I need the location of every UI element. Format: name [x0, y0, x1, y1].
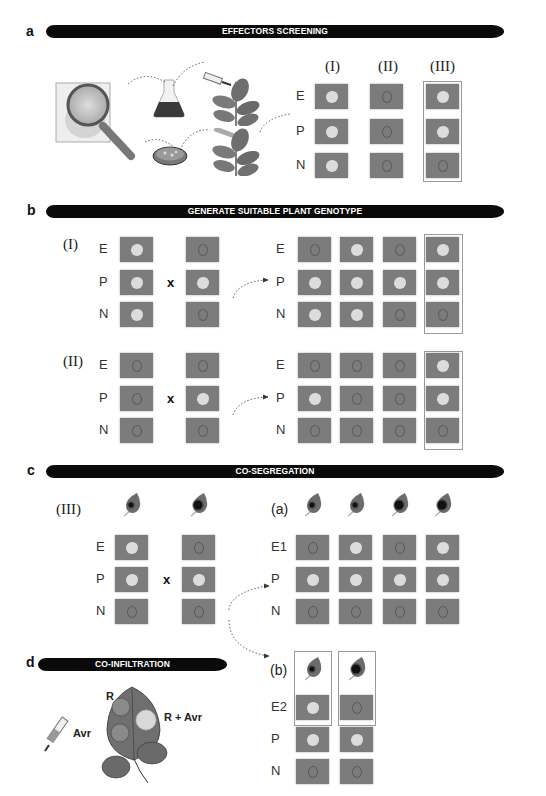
- infiltration-ring-icon: [198, 425, 208, 437]
- row-label: E: [276, 357, 285, 372]
- row-label: P: [296, 123, 305, 138]
- group-label-ii: (II): [63, 353, 83, 370]
- cell-death-spot-icon: [126, 574, 138, 586]
- row-label: N: [276, 422, 285, 437]
- cell-death-spot-icon: [350, 542, 362, 554]
- row-label: E: [99, 241, 108, 256]
- leaf-disc-healthy: [182, 599, 215, 624]
- leaf-disc-healthy: [383, 302, 416, 327]
- leaf-disc-healthy: [426, 599, 459, 624]
- leaf-disc-healthy: [339, 599, 372, 624]
- infiltration-ring-icon: [438, 425, 448, 437]
- cross-symbol: x: [167, 391, 174, 406]
- cell-death-spot-icon: [307, 734, 319, 746]
- leaf-disc-necrotic: [186, 386, 219, 411]
- infiltration-ring-icon: [382, 160, 392, 172]
- infiltration-ring-icon: [308, 766, 318, 778]
- group-label-i: (I): [63, 236, 78, 253]
- leaf-disc-healthy: [340, 418, 373, 443]
- infiltration-ring-icon: [395, 360, 405, 372]
- leaf-disc-healthy: [120, 353, 153, 378]
- panel-c-letter: c: [27, 462, 35, 478]
- row-label: N: [271, 603, 280, 618]
- infiltration-ring-icon: [395, 425, 405, 437]
- leaf-large-lesion-icon: [349, 656, 367, 682]
- panel-d-letter: d: [26, 654, 35, 670]
- cell-death-spot-icon: [326, 91, 338, 103]
- panel-d-banner: CO-INFILTRATION: [38, 658, 227, 671]
- label-avr: Avr: [73, 727, 91, 739]
- leaf-disc-healthy: [340, 759, 373, 784]
- cell-death-spot-icon: [437, 126, 449, 138]
- cell-death-spot-icon: [351, 277, 363, 289]
- infiltration-ring-icon: [395, 309, 405, 321]
- cell-death-spot-icon: [307, 702, 319, 714]
- row-label: P: [276, 274, 285, 289]
- dotted-arrow: [225, 570, 275, 660]
- leaf-disc-healthy: [298, 353, 331, 378]
- leaf-disc-necrotic: [182, 567, 215, 592]
- leaf-disc-healthy: [370, 153, 403, 178]
- leaf-disc-healthy: [426, 153, 459, 178]
- leaf-disc-necrotic: [383, 567, 416, 592]
- leaf-disc-healthy: [340, 386, 373, 411]
- leaf-disc-necrotic: [120, 302, 153, 327]
- cell-death-spot-icon: [197, 277, 209, 289]
- cell-death-spot-icon: [437, 244, 449, 256]
- column-header-i: (I): [325, 58, 340, 75]
- leaf-disc-healthy: [383, 418, 416, 443]
- infiltration-ring-icon: [310, 425, 320, 437]
- column-header-ii: (II): [378, 58, 398, 75]
- leaf-disc-necrotic: [296, 567, 329, 592]
- leaf-disc-necrotic: [186, 270, 219, 295]
- row-label: E: [99, 357, 108, 372]
- leaf-disc-necrotic: [120, 270, 153, 295]
- cell-death-spot-icon: [131, 244, 143, 256]
- leaf-small-lesion-icon: [305, 656, 323, 682]
- cell-death-spot-icon: [326, 126, 338, 138]
- leaf-disc-necrotic: [426, 567, 459, 592]
- row-label: N: [296, 157, 305, 172]
- infiltration-ring-icon: [352, 702, 362, 714]
- leaf-large-lesion-icon: [392, 492, 410, 518]
- infiltration-ring-icon: [194, 542, 204, 554]
- leaf-disc-necrotic: [383, 270, 416, 295]
- leaf-disc-healthy: [383, 353, 416, 378]
- cell-death-spot-icon: [193, 574, 205, 586]
- cell-death-spot-icon: [131, 277, 143, 289]
- panel-a-letter: a: [26, 23, 34, 39]
- leaf-disc-healthy: [115, 599, 148, 624]
- cell-death-spot-icon: [437, 393, 449, 405]
- cell-death-spot-icon: [437, 542, 449, 554]
- row-label: E: [276, 241, 285, 256]
- infiltration-ring-icon: [132, 425, 142, 437]
- row-label: P: [99, 390, 108, 405]
- cell-death-spot-icon: [351, 244, 363, 256]
- infiltration-ring-icon: [310, 360, 320, 372]
- cell-death-spot-icon: [394, 574, 406, 586]
- leaf-small-lesion-icon: [124, 492, 142, 518]
- cell-death-spot-icon: [197, 393, 209, 405]
- infiltration-ring-icon: [395, 542, 405, 554]
- cell-death-spot-icon: [437, 360, 449, 372]
- infiltration-ring-icon: [438, 606, 448, 618]
- leaf-disc-necrotic: [298, 386, 331, 411]
- infiltration-ring-icon: [438, 160, 448, 172]
- parent-label-iii: (III): [56, 501, 81, 518]
- leaf-disc-necrotic: [426, 535, 459, 560]
- cell-death-spot-icon: [309, 309, 321, 321]
- row-label: N: [271, 763, 280, 778]
- cell-death-spot-icon: [437, 277, 449, 289]
- row-label: P: [96, 571, 105, 586]
- row-label: P: [271, 731, 280, 746]
- leaf-disc-necrotic: [426, 119, 459, 144]
- infiltration-ring-icon: [308, 542, 318, 554]
- infiltration-ring-icon: [198, 244, 208, 256]
- leaf-disc-necrotic: [298, 270, 331, 295]
- row-label: N: [96, 603, 105, 618]
- leaf-disc-healthy: [383, 237, 416, 262]
- row-label: N: [99, 422, 108, 437]
- dotted-arrows: [125, 60, 305, 160]
- leaf-large-lesion-icon: [191, 492, 209, 518]
- cell-death-spot-icon: [326, 160, 338, 172]
